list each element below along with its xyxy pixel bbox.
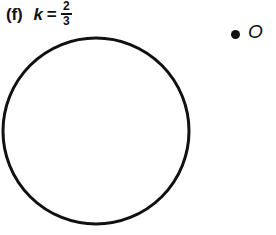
caption-part-label: (f) bbox=[6, 2, 22, 28]
fraction-two-thirds: 2 3 bbox=[61, 1, 72, 27]
equation-equals-sign: = bbox=[47, 2, 57, 28]
caption: (f) k = 2 3 bbox=[6, 2, 72, 28]
center-point-label: O bbox=[248, 20, 263, 44]
scale-factor-equation: k = 2 3 bbox=[33, 2, 71, 28]
circle-outline bbox=[3, 38, 189, 224]
filled-dot-icon bbox=[231, 30, 240, 39]
center-point-marker: O bbox=[231, 22, 263, 46]
equation-variable-k: k bbox=[33, 2, 42, 28]
circle-figure bbox=[0, 36, 196, 232]
fraction-denominator: 3 bbox=[63, 16, 70, 27]
figure-canvas: (f) k = 2 3 O bbox=[0, 0, 276, 235]
fraction-numerator: 2 bbox=[63, 1, 70, 12]
